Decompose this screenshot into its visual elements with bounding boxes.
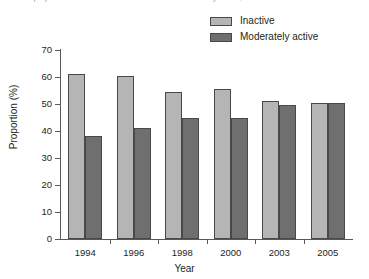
bar-1996-moderately-active xyxy=(134,128,151,239)
y-axis-tick-label-text: 0 xyxy=(12,234,52,244)
y-axis-tick-label-text: 10 xyxy=(12,207,52,217)
y-axis-tick xyxy=(55,104,60,105)
y-axis-tick-label: 10 xyxy=(8,207,52,217)
bar-2003-moderately-active xyxy=(279,105,296,239)
bar-2005-inactive xyxy=(311,103,328,239)
y-axis-tick-label-text: 70 xyxy=(12,45,52,55)
y-axis-tick xyxy=(55,77,60,78)
x-axis-tick xyxy=(110,240,111,244)
y-axis-tick xyxy=(55,212,60,213)
x-axis-title: Year xyxy=(0,264,369,274)
bar-2000-inactive xyxy=(214,89,231,239)
bar-1996-inactive xyxy=(117,76,134,239)
legend-item-label: Moderately active xyxy=(240,32,318,42)
legend-item: Inactive xyxy=(210,14,360,28)
y-axis-tick xyxy=(55,158,60,159)
y-axis-tick-label: 20 xyxy=(8,180,52,190)
x-axis-tick xyxy=(304,240,305,244)
bar-1998-inactive xyxy=(165,92,182,239)
bar-2000-moderately-active xyxy=(231,118,248,240)
bar-2003-inactive xyxy=(262,101,279,239)
bar-1994-moderately-active xyxy=(85,136,102,239)
bar-1998-moderately-active xyxy=(182,118,199,240)
x-axis-tick xyxy=(158,240,159,244)
y-axis-tick xyxy=(55,131,60,132)
plot-area xyxy=(61,50,352,239)
x-axis-tick xyxy=(207,240,208,244)
cropped-caption: trends in proportions of adults who were… xyxy=(0,0,369,7)
caption-text: trends in proportions of adults who were… xyxy=(2,0,280,2)
x-axis-tick xyxy=(255,240,256,244)
x-axis-tick-label: 2005 xyxy=(298,248,358,258)
y-axis-tick-label: 70 xyxy=(8,45,52,55)
bar-1994-inactive xyxy=(68,74,85,239)
legend-item: Moderately active xyxy=(210,30,360,44)
y-axis-tick xyxy=(55,239,60,240)
y-axis-tick xyxy=(55,50,60,51)
bar-2005-moderately-active xyxy=(328,103,345,239)
legend-swatch-icon xyxy=(210,33,232,42)
y-axis-title: Proportion (%) xyxy=(9,57,19,177)
chart-legend: InactiveModerately active xyxy=(210,14,360,46)
legend-item-label: Inactive xyxy=(240,16,274,26)
figure: trends in proportions of adults who were… xyxy=(0,0,369,279)
y-axis-tick-label-text: 20 xyxy=(12,180,52,190)
y-axis-tick xyxy=(55,185,60,186)
legend-swatch-icon xyxy=(210,17,232,26)
y-axis-tick-label: 0 xyxy=(8,234,52,244)
